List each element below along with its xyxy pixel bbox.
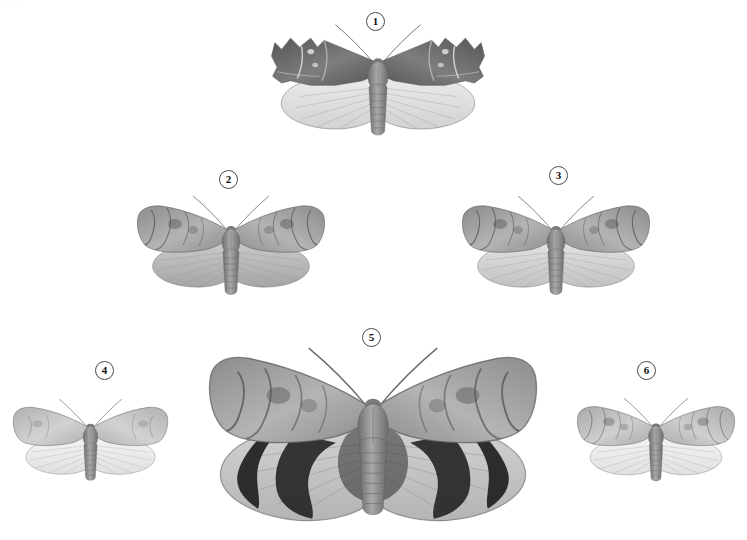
body-3 [547, 226, 565, 295]
specimen-number-badge-4[interactable]: 4 [95, 361, 114, 380]
specimen-2[interactable] [126, 190, 336, 306]
right-wings-5 [373, 357, 536, 520]
moth-drawing-1 [258, 18, 498, 148]
left-wings-1 [272, 38, 378, 132]
page-header-text: PLATE [3, 1, 24, 7]
specimen-number-badge-5[interactable]: 5 [362, 328, 381, 347]
right-wings-1 [378, 38, 484, 132]
specimen-6[interactable] [572, 390, 740, 494]
body-6 [648, 424, 663, 482]
moth-drawing-4 [8, 390, 173, 494]
specimen-5[interactable] [200, 338, 546, 534]
specimen-number-badge-6[interactable]: 6 [637, 361, 656, 380]
specimen-1[interactable] [258, 18, 498, 148]
plate-canvas: PLATE [0, 0, 747, 540]
specimen-3[interactable] [452, 190, 660, 306]
body-1 [368, 58, 388, 135]
body-2 [222, 226, 240, 295]
moth-drawing-6 [572, 390, 740, 494]
specimen-number-badge-2[interactable]: 2 [219, 170, 238, 189]
moth-drawing-3 [452, 190, 660, 306]
specimen-4[interactable] [8, 390, 173, 494]
moth-drawing-2 [126, 190, 336, 306]
left-wings-5 [210, 357, 373, 520]
body-5 [358, 399, 388, 515]
body-4 [83, 424, 98, 481]
moth-drawing-5 [200, 338, 546, 534]
specimen-number-badge-3[interactable]: 3 [549, 166, 568, 185]
specimen-number-badge-1[interactable]: 1 [366, 12, 385, 31]
